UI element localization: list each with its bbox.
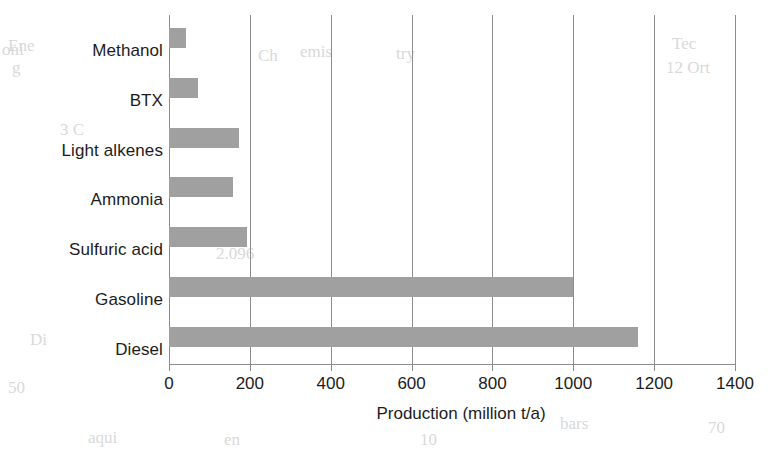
x-axis-title-text: Production (million t/a) <box>376 404 545 423</box>
bar-methanol <box>169 28 186 48</box>
scan-artifact: Di <box>30 330 47 350</box>
x-axis-title: Production (million t/a) <box>0 404 776 424</box>
category-label-ammonia: Ammonia <box>90 190 163 210</box>
scan-artifact: oni <box>2 40 24 60</box>
bar-diesel <box>169 327 638 347</box>
category-label-methanol: Methanol <box>92 41 163 61</box>
scan-artifact: Ene <box>8 36 34 56</box>
category-label-gasoline: Gasoline <box>95 290 163 310</box>
tick-label-600: 600 <box>382 374 442 394</box>
tick-600 <box>412 365 413 371</box>
scan-artifact: 3 C <box>60 120 84 140</box>
scan-artifact: en <box>224 430 240 450</box>
gridline-400 <box>331 15 332 364</box>
bar-gasoline <box>169 277 573 297</box>
gridline-1400 <box>735 15 736 364</box>
gridline-1200 <box>654 15 655 364</box>
tick-label-400: 400 <box>301 374 361 394</box>
category-label-sulfuric-acid: Sulfuric acid <box>69 240 163 260</box>
x-axis-line <box>169 364 736 365</box>
tick-800 <box>492 365 493 371</box>
tick-label-1200: 1200 <box>624 374 684 394</box>
tick-0 <box>169 365 170 371</box>
category-label-diesel: Diesel <box>115 340 163 360</box>
gridline-600 <box>412 15 413 364</box>
tick-label-0: 0 <box>139 374 199 394</box>
scan-artifact: 10 <box>420 430 437 450</box>
category-label-btx: BTX <box>130 91 163 111</box>
scan-artifact: g <box>12 58 21 78</box>
tick-label-1000: 1000 <box>543 374 603 394</box>
bar-sulfuric-acid <box>169 227 247 247</box>
tick-label-1400: 1400 <box>705 374 765 394</box>
gridline-1000 <box>573 15 574 364</box>
scan-artifact: 50 <box>8 378 25 398</box>
tick-1000 <box>573 365 574 371</box>
gridline-200 <box>250 15 251 364</box>
bar-ammonia <box>169 177 233 197</box>
gridline-800 <box>492 15 493 364</box>
tick-400 <box>331 365 332 371</box>
tick-1400 <box>735 365 736 371</box>
tick-label-200: 200 <box>220 374 280 394</box>
plot-area <box>169 15 735 364</box>
scan-artifact: aqui <box>88 428 117 448</box>
production-bar-chart: EneonigChemistryTec12 Ort2.096Di3 C50aqu… <box>0 0 776 456</box>
bar-btx <box>169 78 198 98</box>
tick-1200 <box>654 365 655 371</box>
bar-light-alkenes <box>169 128 239 148</box>
category-label-light-alkenes: Light alkenes <box>62 141 163 161</box>
tick-label-800: 800 <box>462 374 522 394</box>
tick-200 <box>250 365 251 371</box>
